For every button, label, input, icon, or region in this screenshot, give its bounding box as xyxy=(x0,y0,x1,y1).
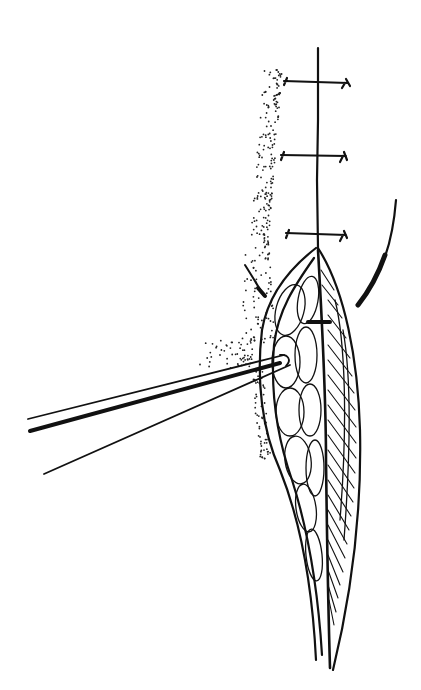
forceps xyxy=(28,355,290,474)
curved-needle xyxy=(358,200,396,305)
retraction-mark-head xyxy=(258,288,265,296)
surgical-illustration xyxy=(0,0,421,690)
interrupted-sutures xyxy=(281,78,350,241)
incision-line xyxy=(317,48,318,248)
stippled-skin xyxy=(199,69,282,459)
needle-body xyxy=(358,255,385,305)
